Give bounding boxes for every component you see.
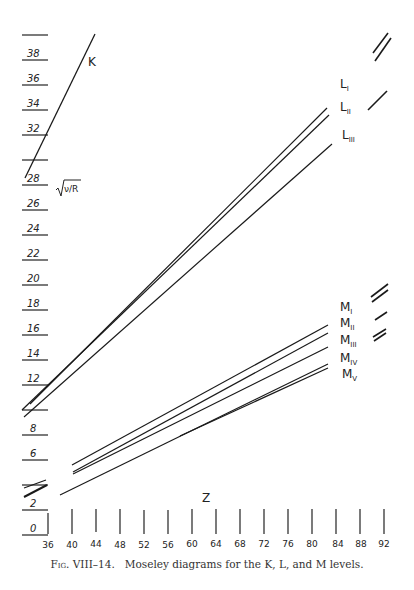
x-tick-label: 76 xyxy=(282,539,294,549)
y-axis-label: ν/R xyxy=(56,180,81,196)
y-tick-label: 2 xyxy=(30,498,36,509)
label-m5: MV xyxy=(342,367,357,383)
label-l1: LI xyxy=(340,77,349,93)
label-m1: MI xyxy=(340,300,352,316)
series-labels: K LI LII LIII MI MII MIII MIV MV xyxy=(88,55,357,383)
moseley-diagram: 38 36 34 32 28 26 24 22 20 18 16 14 12 8… xyxy=(0,0,414,590)
plot-lines xyxy=(22,34,332,497)
y-tick-label: 14 xyxy=(27,348,40,359)
x-tick-label: 72 xyxy=(258,539,269,549)
x-tick-label: 56 xyxy=(162,540,174,550)
x-tick-label: 92 xyxy=(378,539,389,549)
break-marks xyxy=(368,33,391,341)
label-m2: MII xyxy=(340,316,355,332)
x-tick-label: 44 xyxy=(90,539,102,549)
figure-caption: Fig. VIII–14. Moseley diagrams for the K… xyxy=(0,558,414,570)
label-l3: LIII xyxy=(342,128,355,144)
svg-text:ν/R: ν/R xyxy=(64,184,78,194)
figure-label: Fig. VIII–14. xyxy=(50,558,114,570)
line-m1 xyxy=(72,325,328,465)
y-tick-label: 26 xyxy=(27,198,40,209)
x-tick-label: 40 xyxy=(66,540,78,550)
x-tick-label: 52 xyxy=(138,540,149,550)
y-tick-label: 16 xyxy=(27,323,40,334)
x-tick-label: 84 xyxy=(332,539,344,549)
x-axis xyxy=(48,509,384,534)
label-m3: MIII xyxy=(340,333,357,349)
x-tick-labels: 36 40 44 48 52 56 60 64 68 72 76 80 84 8… xyxy=(42,539,389,550)
x-tick-label: 36 xyxy=(42,540,54,550)
x-tick-label: 60 xyxy=(186,539,198,549)
y-tick-labels: 38 36 34 32 28 26 24 22 20 18 16 14 12 8… xyxy=(27,48,40,534)
x-axis-label: Z xyxy=(202,491,210,505)
x-tick-label: 48 xyxy=(114,540,126,550)
caption-text: Moseley diagrams for the K, L, and M lev… xyxy=(125,558,364,570)
x-tick-label: 80 xyxy=(306,539,318,549)
line-m2 xyxy=(73,333,328,472)
x-tick-label: 88 xyxy=(355,539,367,549)
y-tick-label: 8 xyxy=(30,423,36,434)
y-tick-label: 18 xyxy=(27,298,40,309)
y-tick-label: 28 xyxy=(27,173,40,184)
y-tick-label: 20 xyxy=(27,273,40,284)
y-tick-label: 24 xyxy=(27,223,40,234)
y-tick-label: 6 xyxy=(30,448,36,459)
y-tick-label: 22 xyxy=(27,248,40,259)
label-m4: MIV xyxy=(340,351,357,367)
line-l2 xyxy=(22,115,329,410)
x-tick-label: 68 xyxy=(234,539,246,549)
y-tick-label: 36 xyxy=(27,73,40,84)
x-tick-label: 64 xyxy=(210,539,222,549)
y-axis xyxy=(22,35,48,535)
y-tick-label: 38 xyxy=(27,48,40,59)
y-tick-label: 12 xyxy=(27,373,40,384)
label-k: K xyxy=(88,55,97,69)
y-tick-label: 32 xyxy=(27,123,40,134)
y-tick-label: 34 xyxy=(27,98,40,109)
line-m3 xyxy=(73,347,328,474)
y-tick-label: 0 xyxy=(30,523,36,534)
label-l2: LII xyxy=(340,100,351,116)
